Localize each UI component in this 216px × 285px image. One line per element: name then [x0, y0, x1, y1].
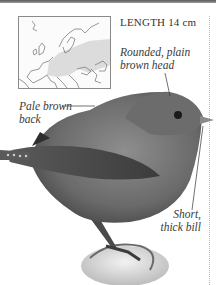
annotation-bill-line1: Short, [155, 208, 201, 221]
bird-illustration [0, 0, 216, 285]
annotation-bill: Short, thick bill [155, 208, 201, 234]
annotation-back-line1: Pale brown [19, 100, 72, 113]
annotation-back: Pale brown back [19, 100, 72, 126]
annotation-back-line2: back [19, 113, 72, 126]
annotation-head-line1: Rounded, plain [120, 46, 190, 59]
annotation-head-line2: brown head [120, 59, 190, 72]
annotation-head: Rounded, plain brown head [120, 46, 190, 72]
annotation-bill-line2: thick bill [155, 221, 201, 234]
